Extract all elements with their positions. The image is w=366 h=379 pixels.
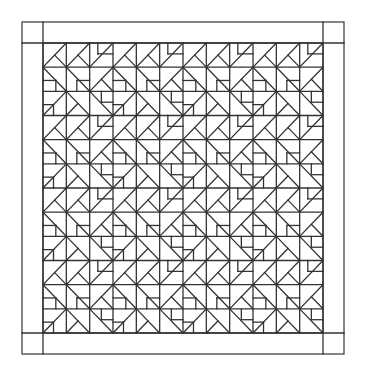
quilt-diagram: [0, 0, 366, 379]
